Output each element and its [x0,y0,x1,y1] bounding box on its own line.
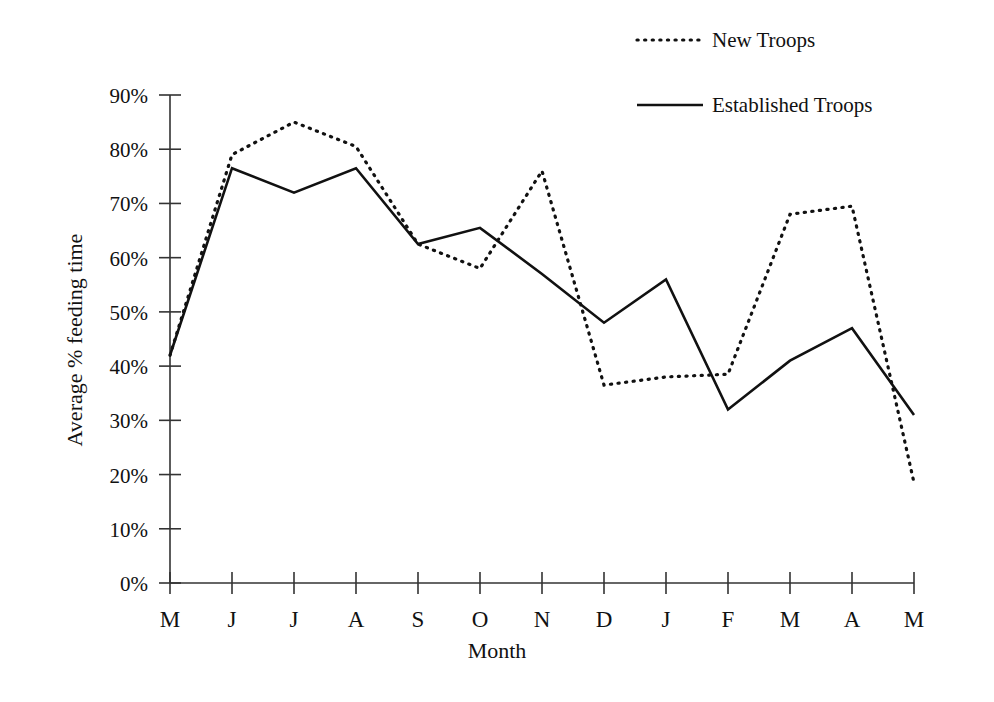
y-tick-label: 80% [110,138,149,162]
y-axis: 0%10%20%30%40%50%60%70%80%90% Average % … [62,84,181,596]
x-tick-label: D [596,607,613,632]
x-tick-label: N [534,607,551,632]
x-tick-label: F [722,607,735,632]
x-tick-label: J [662,607,671,632]
y-tick-label: 70% [110,192,149,216]
y-tick-label: 50% [110,301,149,325]
feeding-time-line-chart: New Troops Established Troops 0%10%20%30… [0,0,994,702]
y-tick-label: 0% [120,572,148,596]
legend-entry-established-troops: Established Troops [637,93,872,117]
y-tick-label: 60% [110,247,149,271]
series-line-established-troops [170,168,914,415]
x-tick-label: J [290,607,299,632]
x-tick-label: A [348,607,365,632]
y-axis-title: Average % feeding time [62,234,87,447]
y-tick-label: 30% [110,409,149,433]
y-tick-label: 90% [110,84,149,108]
plot-area [170,122,914,483]
y-tick-label: 40% [110,355,149,379]
x-tick-label: A [844,607,861,632]
y-tick-label: 10% [110,518,149,542]
y-tick-labels: 0%10%20%30%40%50%60%70%80%90% [110,84,149,596]
legend-entry-new-troops: New Troops [637,28,815,52]
legend-label-established-troops: Established Troops [712,93,872,117]
x-axis-title: Month [468,638,527,663]
y-tick-label: 20% [110,464,149,488]
x-tick-label: J [228,607,237,632]
legend-label-new-troops: New Troops [712,28,815,52]
series-line-new-troops [170,122,914,483]
x-tick-label: M [780,607,800,632]
x-axis: MJJASONDJFMAM Month [160,572,924,663]
x-tick-label: S [412,607,425,632]
x-tick-labels: MJJASONDJFMAM [160,607,924,632]
x-tick-label: M [904,607,924,632]
chart-legend: New Troops Established Troops [637,28,872,117]
x-tick-label: O [472,607,489,632]
x-tick-label: M [160,607,180,632]
